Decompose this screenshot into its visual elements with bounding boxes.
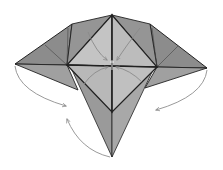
origami-fold-figure [0, 0, 223, 170]
origami-diagram [0, 0, 223, 170]
